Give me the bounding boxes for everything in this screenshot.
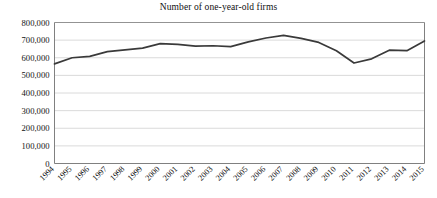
y-axis-tick-label: 400,000 <box>22 88 50 98</box>
y-axis-tick-label: 300,000 <box>22 106 50 116</box>
y-axis-tick-label: 200,000 <box>22 123 50 133</box>
x-axis-tick-label: 2005 <box>232 165 250 183</box>
x-axis-tick-label: 2007 <box>267 165 285 183</box>
x-axis-tick-label: 1997 <box>91 165 109 183</box>
x-axis-tick-label: 1998 <box>108 165 126 183</box>
x-axis-tick-label: 2003 <box>196 165 214 183</box>
x-axis-tick-label: 2001 <box>161 165 179 183</box>
x-axis-tick-label: 2012 <box>355 165 373 183</box>
y-axis-tick-label: 800,000 <box>22 18 50 28</box>
x-axis-tick-label: 2009 <box>302 165 320 183</box>
series-line <box>55 35 425 64</box>
y-axis-tick-label: 700,000 <box>22 35 50 45</box>
y-axis-tick-label: 600,000 <box>22 53 50 63</box>
x-axis-tick-label: 1996 <box>73 165 91 183</box>
x-axis-tick-label: 2008 <box>284 165 302 183</box>
x-axis-tick-label: 2004 <box>214 164 233 183</box>
x-axis-tick-label: 2013 <box>373 165 391 183</box>
line-chart-plot: 800,000700,000600,000500,000400,000300,0… <box>0 0 437 198</box>
x-axis-tick-label: 1999 <box>126 165 144 183</box>
y-axis-tick-labels: 800,000700,000600,000500,000400,000300,0… <box>22 18 50 169</box>
x-axis-tick-label: 2015 <box>408 165 426 183</box>
x-axis-tick-label: 1994 <box>38 164 57 183</box>
chart-container: Number of one-year-old firms 800,000700,… <box>0 0 437 198</box>
x-axis-tick-label: 2006 <box>249 165 267 183</box>
x-axis-tick-label: 2010 <box>320 165 338 183</box>
x-axis-tick-label: 2002 <box>179 165 197 183</box>
y-axis-tick-label: 500,000 <box>22 70 50 80</box>
x-axis-tick-label: 2011 <box>338 165 356 183</box>
data-series-line <box>55 35 425 64</box>
x-axis-tick-label: 1995 <box>55 165 73 183</box>
x-axis-tick-label: 2014 <box>390 164 409 183</box>
y-axis-tick-label: 100,000 <box>22 141 50 151</box>
x-axis-tick-labels: 1994199519961997199819992000200120022003… <box>38 164 426 183</box>
x-axis-tick-label: 2000 <box>144 165 162 183</box>
